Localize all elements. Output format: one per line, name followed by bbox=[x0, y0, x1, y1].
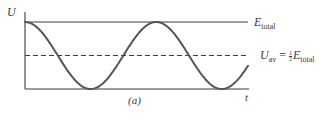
one-half-fraction: 12 bbox=[289, 51, 292, 62]
u-av-subscript: av bbox=[269, 55, 277, 64]
u-av-symbol: U bbox=[260, 48, 269, 62]
e-total-subscript: total bbox=[261, 22, 275, 31]
u-average-label: Uav=12Etotal bbox=[260, 49, 315, 64]
figure-caption: (a) bbox=[128, 95, 141, 106]
e-total-rhs-subscript: total bbox=[300, 55, 314, 64]
y-axis-label: U bbox=[7, 6, 16, 18]
equals-sign: = bbox=[279, 48, 286, 62]
e-total-label: Etotal bbox=[254, 16, 276, 31]
potential-energy-curve bbox=[25, 22, 248, 89]
x-axis-label: t bbox=[245, 92, 248, 103]
energy-oscillation-figure: U t (a) Etotal Uav=12Etotal bbox=[0, 0, 336, 120]
fraction-denominator: 2 bbox=[289, 57, 292, 62]
